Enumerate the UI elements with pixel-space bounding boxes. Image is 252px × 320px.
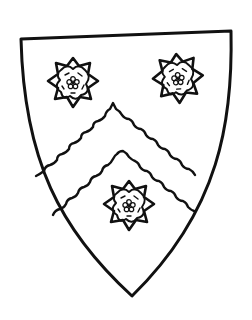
chevron-upper-edge [36, 103, 195, 176]
coat-of-arms [0, 0, 252, 320]
rose-sinister-chief-icon [151, 52, 204, 104]
rose-dexter-chief-icon [48, 58, 98, 107]
rose-base-icon [104, 181, 154, 230]
